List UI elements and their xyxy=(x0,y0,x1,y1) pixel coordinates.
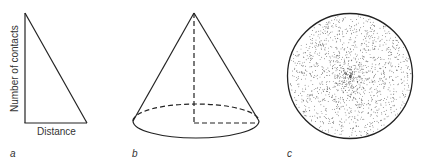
panel-label-a: a xyxy=(10,148,16,159)
panel-b-cone xyxy=(133,13,259,138)
panel-c-stippled-circle xyxy=(288,14,413,139)
y-axis-label: Number of contacts xyxy=(9,25,20,112)
diagram-canvas xyxy=(0,0,426,166)
x-axis-label: Distance xyxy=(37,126,76,137)
panel-label-b: b xyxy=(132,148,138,159)
panel-label-c: c xyxy=(287,148,292,159)
panel-a-triangle xyxy=(24,13,87,123)
